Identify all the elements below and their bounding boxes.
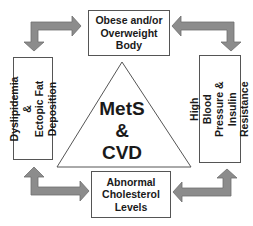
node-obese-overweight: Obese and/or Overweight Body	[88, 10, 170, 56]
node-label: Dyslipidemia & Ectopic Fat Deposition	[8, 76, 58, 141]
node-label: Obese and/or Overweight Body	[95, 14, 162, 52]
arrow-bottom-right-icon	[173, 169, 237, 202]
arrow-top-right-icon	[172, 16, 241, 51]
node-dyslipidemia: Dyslipidemia & Ectopic Fat Deposition	[13, 57, 53, 160]
node-label: High Blood Pressure & Insulin Resistance	[189, 81, 252, 136]
arrow-bottom-left-icon	[24, 167, 89, 201]
center-label-mets-cvd: MetS & CVD	[84, 98, 160, 164]
node-high-blood-pressure: High Blood Pressure & Insulin Resistance	[199, 55, 241, 163]
node-abnormal-cholesterol: Abnormal Cholesterol Levels	[91, 171, 171, 218]
arrow-top-left-icon	[24, 16, 81, 51]
node-label: Abnormal Cholesterol Levels	[102, 176, 160, 214]
